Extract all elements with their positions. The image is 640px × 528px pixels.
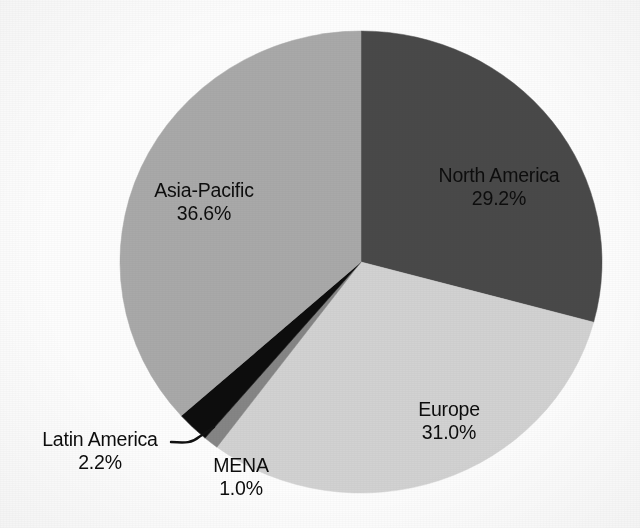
slice-label-latin-america-name: Latin America [14,428,186,451]
slice-label-asia-pacific-name: Asia-Pacific [128,179,280,202]
slice-label-north-america: North America 29.2% [404,164,594,209]
slice-label-europe-pct: 31.0% [374,421,524,444]
slice-label-latin-america-pct: 2.2% [14,451,186,474]
slice-label-north-america-pct: 29.2% [404,187,594,210]
slice-label-mena: MENA 1.0% [178,454,304,499]
slice-label-mena-name: MENA [178,454,304,477]
slice-label-europe: Europe 31.0% [374,398,524,443]
slice-label-latin-america: Latin America 2.2% [14,428,186,473]
pie-slice-group [120,31,602,493]
slice-label-asia-pacific-pct: 36.6% [128,202,280,225]
slice-label-europe-name: Europe [374,398,524,421]
slice-label-asia-pacific: Asia-Pacific 36.6% [128,179,280,224]
slice-label-mena-pct: 1.0% [178,477,304,500]
chart-canvas: North America 29.2% Europe 31.0% Asia-Pa… [0,0,640,528]
slice-label-north-america-name: North America [404,164,594,187]
